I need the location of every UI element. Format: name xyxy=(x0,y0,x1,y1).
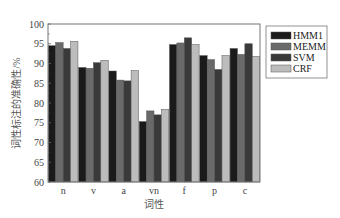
bar-memm-vn xyxy=(147,111,154,182)
bar-crf-c xyxy=(252,56,259,182)
y-tick-label: 80 xyxy=(34,98,44,109)
x-tick-label: f xyxy=(183,185,187,196)
legend-swatch-hmm1 xyxy=(271,32,291,39)
bar-crf-vn xyxy=(161,109,168,182)
bar-hmm1-f xyxy=(169,45,176,182)
legend-swatch-crf xyxy=(271,65,291,72)
bar-hmm1-n xyxy=(48,46,55,182)
y-axis-title: 词性标注的准确性/% xyxy=(10,57,22,148)
bar-svm-c xyxy=(245,44,252,182)
x-axis: nvavnfpc xyxy=(61,185,248,196)
bar-crf-n xyxy=(71,41,78,182)
legend-label-crf: CRF xyxy=(293,63,312,74)
y-tick-label: 85 xyxy=(34,78,44,89)
y-tick-label: 75 xyxy=(34,117,44,128)
bar-crf-a xyxy=(131,71,138,182)
bar-hmm1-v xyxy=(79,67,86,182)
legend-swatch-memm xyxy=(271,43,291,50)
y-tick-label: 95 xyxy=(34,38,44,49)
bar-memm-v xyxy=(86,68,93,182)
bar-memm-f xyxy=(177,43,184,182)
bars-layer xyxy=(48,38,259,182)
x-tick-label: a xyxy=(121,185,126,196)
y-tick-label: 90 xyxy=(34,58,44,69)
bar-svm-f xyxy=(184,38,191,182)
x-axis-title: 词性 xyxy=(144,198,164,210)
x-tick-label: p xyxy=(212,185,217,196)
bar-memm-n xyxy=(56,43,63,182)
bar-crf-f xyxy=(192,45,199,182)
bar-svm-vn xyxy=(154,115,161,182)
y-tick-label: 60 xyxy=(34,177,44,188)
x-tick-label: c xyxy=(243,185,248,196)
bar-memm-p xyxy=(207,60,214,182)
legend: HMM1MEMMSVMCRF xyxy=(266,26,327,78)
bar-crf-p xyxy=(222,56,229,182)
bar-hmm1-c xyxy=(230,48,237,182)
bar-crf-v xyxy=(101,60,108,182)
x-tick-label: n xyxy=(61,185,66,196)
bar-memm-c xyxy=(237,54,244,182)
x-tick-label: vn xyxy=(149,185,159,196)
y-tick-label: 70 xyxy=(34,137,44,148)
bar-hmm1-a xyxy=(109,71,116,182)
x-tick-label: v xyxy=(91,185,96,196)
bar-hmm1-p xyxy=(200,56,207,182)
bar-chart: 6065707580859095100 nvavnfpc 词性标注的准确性/% … xyxy=(0,0,340,218)
bar-memm-a xyxy=(116,80,123,182)
legend-label-svm: SVM xyxy=(293,52,315,63)
bar-svm-n xyxy=(63,48,70,182)
legend-label-hmm1: HMM1 xyxy=(293,30,323,41)
bar-hmm1-vn xyxy=(139,122,146,182)
y-tick-label: 100 xyxy=(29,19,44,30)
bar-svm-v xyxy=(93,63,100,182)
legend-label-memm: MEMM xyxy=(293,41,326,52)
y-tick-label: 65 xyxy=(34,157,44,168)
bar-svm-a xyxy=(124,81,131,182)
bar-svm-p xyxy=(215,69,222,182)
legend-swatch-svm xyxy=(271,54,291,61)
